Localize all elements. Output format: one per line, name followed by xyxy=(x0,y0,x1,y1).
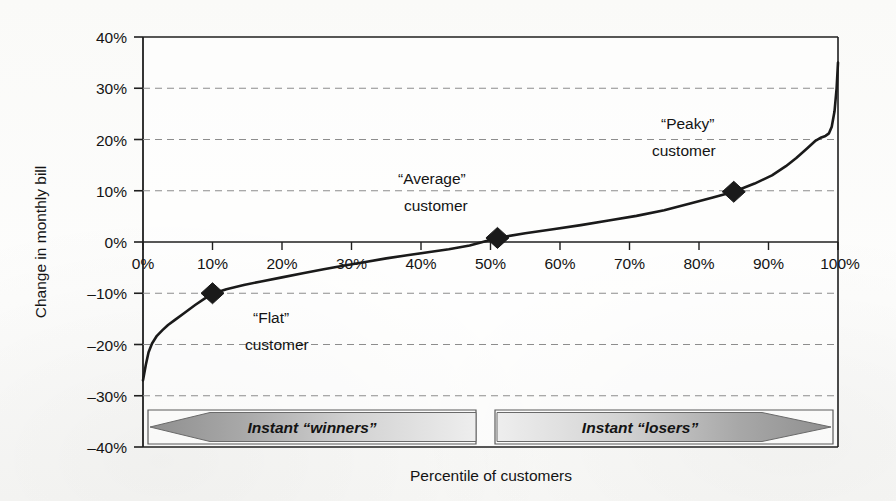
peaky-label-line2: customer xyxy=(652,142,716,159)
y-tick-label-10: 10% xyxy=(96,183,127,200)
x-tick-label-0: 0% xyxy=(132,255,155,272)
y-tick-label-20: 20% xyxy=(96,132,127,149)
x-tick-label-60: 60% xyxy=(544,255,575,272)
peaky-label-line1: “Peaky” xyxy=(661,115,714,132)
flat-label-line2: customer xyxy=(245,336,309,353)
y-tick-labels: 40% 30% 20% 10% 0% –10% –20% –30% –40% xyxy=(87,29,127,456)
y-tick-label-n10: –10% xyxy=(87,285,127,302)
x-tick-label-80: 80% xyxy=(683,255,714,272)
chart-figure: 40% 30% 20% 10% 0% –10% –20% –30% –40% 0… xyxy=(0,0,896,501)
y-tick-label-n20: –20% xyxy=(87,337,127,354)
y-tick-label-40: 40% xyxy=(96,29,127,46)
chart-svg: 40% 30% 20% 10% 0% –10% –20% –30% –40% 0… xyxy=(0,0,896,501)
x-tick-label-100: 100% xyxy=(820,255,860,272)
x-tick-label-70: 70% xyxy=(614,255,645,272)
x-tick-label-40: 40% xyxy=(405,255,436,272)
x-axis-title: Percentile of customers xyxy=(410,467,572,484)
winners-banner-label: Instant “winners” xyxy=(247,419,376,436)
y-tick-label-0: 0% xyxy=(105,234,128,251)
average-label-line2: customer xyxy=(404,197,468,214)
y-tick-marks xyxy=(134,37,143,447)
y-tick-label-30: 30% xyxy=(96,80,127,97)
x-tick-label-20: 20% xyxy=(266,255,297,272)
average-label-line1: “Average” xyxy=(398,170,466,187)
x-tick-label-50: 50% xyxy=(475,255,506,272)
winners-banner: Instant “winners” xyxy=(148,410,476,444)
y-axis-title: Change in monthly bill xyxy=(32,166,49,319)
y-tick-label-n40: –40% xyxy=(87,439,127,456)
x-tick-label-10: 10% xyxy=(197,255,228,272)
flat-label-line1: “Flat” xyxy=(253,309,289,326)
x-tick-label-90: 90% xyxy=(753,255,784,272)
losers-banner-label: Instant “losers” xyxy=(582,419,699,436)
y-tick-label-n30: –30% xyxy=(87,388,127,405)
